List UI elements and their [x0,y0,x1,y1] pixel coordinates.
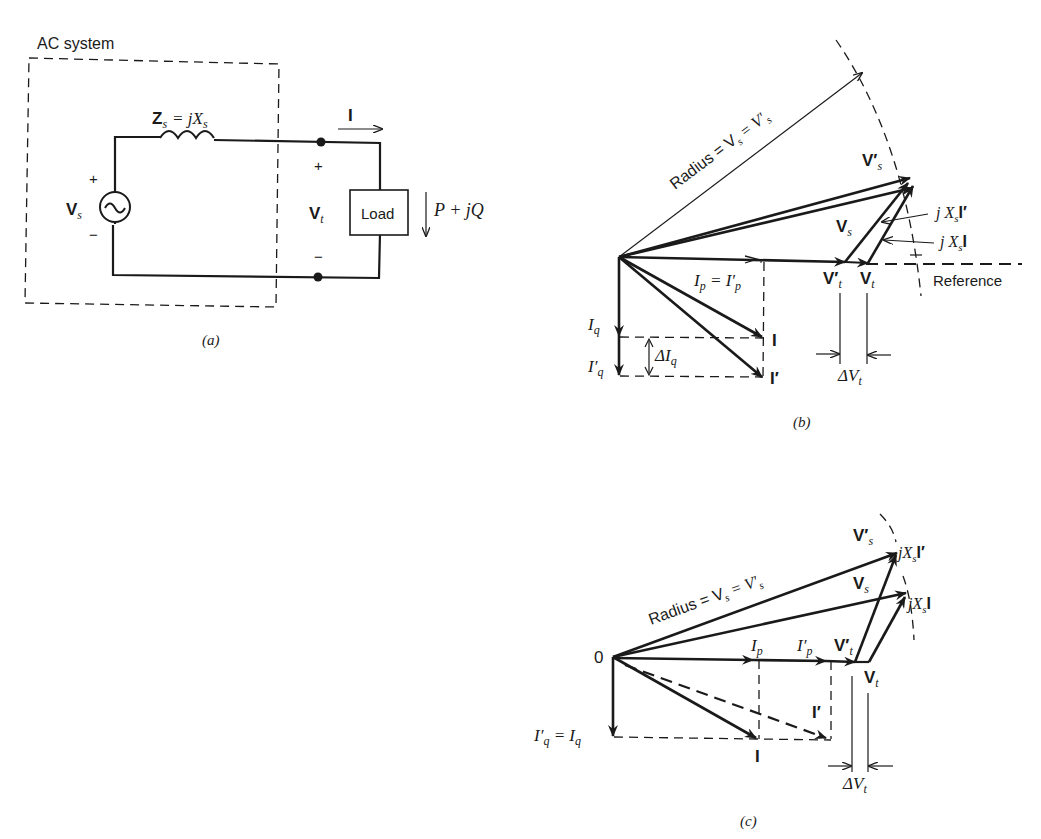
iq-label: Iq [587,315,600,337]
arc-upper [880,514,896,542]
vs-vector [619,188,912,257]
vs-prime-label: V′s [862,151,882,173]
vs-label: Vs [836,217,852,239]
ip-label: Ip [750,636,763,658]
origin-label: 0 [594,648,603,667]
jxsi-prime-label: j XsI′ [934,204,967,224]
iq-equality-label: I′q = Iq [533,726,581,748]
inductor-icon [160,131,214,138]
terminal-node-top [317,138,326,147]
ip-projection [763,262,764,378]
load-label: Load [361,205,394,222]
source-plus: + [89,170,98,187]
figure-c-phasor: 0 Radius = Vs = V′s V′s Vs jXsI′ jXsI Ip… [533,514,931,830]
vs-prime-label: V′s [853,526,873,548]
caption-c: (c) [740,813,757,830]
jxsi-vector [869,597,905,662]
source-minus: − [89,226,98,243]
vt-label: Vt [860,269,875,291]
caption-b: (b) [793,414,811,431]
figure-a-circuit: AC system Zs= jXs + − Vs + − Vt I Load P… [25,35,484,349]
iq-projection [620,337,763,338]
jxsi-leader [884,240,934,243]
wire-bottom [113,225,380,278]
vt-prime-vector [619,257,845,262]
jxsi-prime-label: jXsI′ [896,544,925,564]
vt-label: Vt [864,668,879,690]
terminal-plus: + [314,157,323,174]
jxsi-prime-leader [882,214,928,222]
delta-vt-label: ΔVt [837,366,862,388]
caption-a: (a) [202,332,220,349]
iq-prime-projection [620,376,763,377]
i-prime-label: I′ [770,369,779,388]
delta-iq-label: ΔIq [654,346,677,368]
vt-prime-label: V′t [823,269,842,291]
vs-prime-vector [619,178,910,257]
reference-label: Reference [933,272,1002,289]
ip-vector [613,658,753,660]
i-vector [619,257,762,337]
delta-vt-label: ΔVt [842,774,867,796]
i-label: I [755,747,760,766]
iq-prime-label: I′q [587,357,603,379]
source-voltage-label: Vs [66,200,82,222]
jxsi-label: jXsI [906,595,931,615]
i-label: I [772,331,777,350]
figure-b-phasor: Radius = Vs = V′s V′s Vs j XsI′ j XsI V′… [587,40,1022,431]
i-prime-vector [619,257,762,377]
ip-prime-label: I′p [796,636,812,658]
impedance-label: Zs= jXs [152,109,208,131]
terminal-node-bottom [314,273,323,282]
ac-system-label: AC system [37,35,114,52]
ip-prime-vector [753,660,826,661]
jxsi-label: j XsI [938,233,967,253]
vt-prime-label: V′t [834,636,853,658]
jxsi-prime-vector [855,555,896,662]
current-label: I [348,106,353,125]
figure-canvas: AC system Zs= jXs + − Vs + − Vt I Load P… [0,0,1041,839]
radius-label: Radius = Vs = V′s [667,107,774,195]
vt-vector [845,262,868,263]
iq-projection [614,737,831,740]
terminal-minus: − [314,248,323,265]
vs-label: Vs [853,574,869,596]
power-label: P + jQ [433,200,484,220]
ip-label: Ip = I′p [693,271,741,293]
ac-system-boundary [25,58,279,307]
terminal-voltage-label: Vt [309,204,324,226]
i-prime-vector [625,665,826,738]
i-prime-label: I′ [812,703,821,722]
wire-top-right [214,140,380,190]
